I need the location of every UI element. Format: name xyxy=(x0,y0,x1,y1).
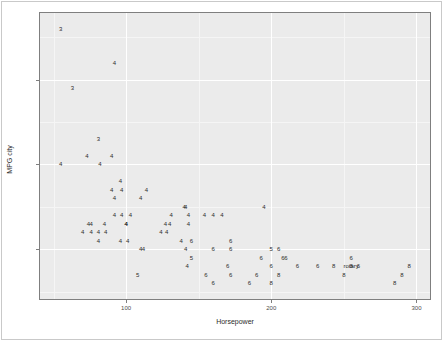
x-axis-title: Horsepower xyxy=(39,318,431,325)
y-axis-title: MPG city xyxy=(6,120,13,200)
chart-figure: 3433444444444444444444444444444444444444… xyxy=(0,0,444,342)
x-tick-label: 200 xyxy=(266,305,276,311)
x-tick-mark xyxy=(271,300,272,303)
x-tick-label: 100 xyxy=(121,305,131,311)
x-axis-ticks: 100200300 xyxy=(0,0,444,342)
x-tick-mark xyxy=(126,300,127,303)
x-tick-label: 300 xyxy=(411,305,421,311)
x-tick-mark xyxy=(416,300,417,303)
